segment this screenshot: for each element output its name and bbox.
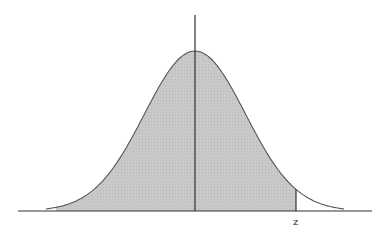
normal-curve-chart: z bbox=[0, 0, 388, 239]
z-label: z bbox=[293, 216, 298, 227]
shaded-area bbox=[56, 51, 296, 211]
